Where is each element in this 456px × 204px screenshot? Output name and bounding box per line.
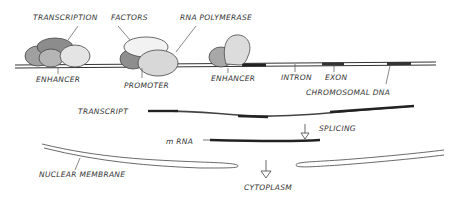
label-nuclear-membrane: NUCLEAR MEMBRANE [39, 170, 125, 179]
splicing-arrow [301, 124, 309, 139]
mrna-strand [203, 140, 320, 141]
nuclear-membrane [42, 144, 444, 168]
label-factors: FACTORS [111, 13, 148, 22]
label-enhancer-right: ENHANCER [211, 74, 255, 83]
transcription-factor-cluster-right [209, 35, 250, 67]
label-mrna: m RNA [166, 137, 193, 146]
label-rna-polymerase: RNA POLYMERASE [180, 13, 252, 22]
rna-polymerase-complex [120, 37, 178, 76]
export-arrow [261, 160, 271, 178]
label-splicing: SPLICING [319, 124, 356, 133]
label-intron: INTRON [281, 73, 312, 82]
label-transcript: TRANSCRIPT [78, 107, 128, 116]
transcript-rna [148, 106, 414, 117]
label-chromosomal-dna: CHROMOSOMAL DNA [306, 88, 390, 97]
exon-segment [242, 64, 266, 67]
exon-segment [387, 62, 411, 65]
label-cytoplasm: CYTOPLASM [244, 183, 292, 192]
exon-segment [322, 63, 344, 66]
label-enhancer-left: ENHANCER [36, 75, 80, 84]
gene-expression-diagram: TRANSCRIPTION FACTORS RNA POLYMERASE ENH… [0, 0, 456, 204]
label-exon: EXON [325, 73, 347, 82]
label-transcription: TRANSCRIPTION [33, 13, 98, 22]
transcription-factor-cluster-left [25, 38, 90, 67]
label-promoter: PROMOTER [124, 81, 169, 90]
